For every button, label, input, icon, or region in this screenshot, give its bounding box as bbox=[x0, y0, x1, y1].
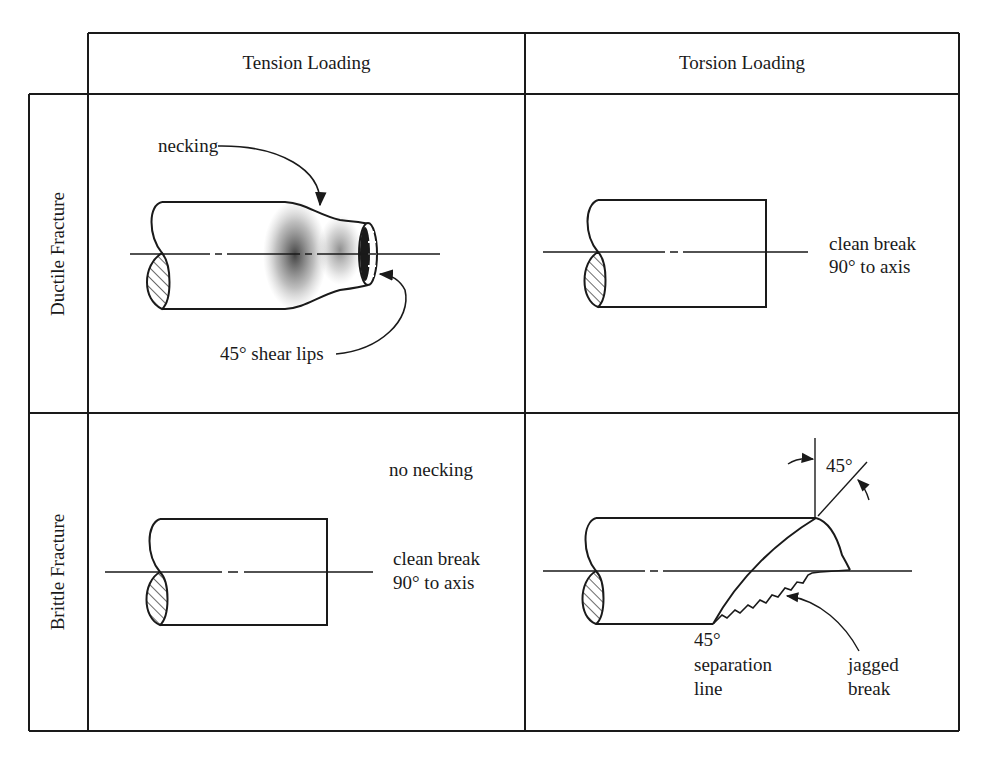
ductile-tension-specimen bbox=[130, 146, 440, 354]
label-90-to-axis-brittle: 90° to axis bbox=[393, 572, 474, 594]
label-clean-break-ductile: clean break bbox=[829, 233, 916, 255]
brittle-tension-specimen bbox=[105, 519, 373, 625]
label-necking: necking bbox=[158, 135, 218, 157]
brittle-torsion-specimen bbox=[543, 438, 912, 651]
label-no-necking: no necking bbox=[389, 459, 473, 481]
row-header-ductile: Ductile Fracture bbox=[47, 174, 69, 334]
label-45-separation: 45° bbox=[694, 629, 721, 651]
label-shear-lips: 45° shear lips bbox=[220, 343, 324, 365]
label-clean-break-brittle: clean break bbox=[393, 548, 480, 570]
label-line: line bbox=[694, 678, 723, 700]
label-break: break bbox=[848, 678, 890, 700]
label-jagged: jagged bbox=[848, 654, 899, 676]
column-header-tension: Tension Loading bbox=[88, 52, 525, 74]
diagram-artwork bbox=[0, 0, 990, 763]
label-separation: separation bbox=[694, 654, 772, 676]
ductile-torsion-specimen bbox=[543, 200, 808, 307]
fracture-diagram: Tension Loading Torsion Loading Ductile … bbox=[0, 0, 990, 763]
label-45-angle: 45° bbox=[826, 455, 853, 477]
column-header-torsion: Torsion Loading bbox=[525, 52, 959, 74]
label-90-to-axis-ductile: 90° to axis bbox=[829, 256, 910, 278]
row-header-brittle: Brittle Fracture bbox=[47, 492, 69, 652]
